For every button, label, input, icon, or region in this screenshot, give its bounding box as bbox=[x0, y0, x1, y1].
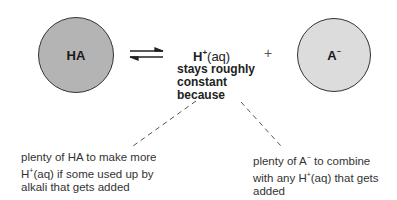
dashed-pointer-right bbox=[241, 102, 281, 146]
h-plus-explanation: H+(aq) stays roughly constant because bbox=[177, 46, 255, 102]
a-minus-ion-circle: A− bbox=[297, 18, 371, 92]
a-minus-label: A− bbox=[327, 48, 340, 63]
plus-sign: + bbox=[264, 45, 272, 61]
h-plus-species: H+(aq) bbox=[193, 46, 255, 63]
caption-line-3: because bbox=[177, 89, 255, 102]
note-right: plenty of A− to combine with any H+(aq) … bbox=[253, 151, 393, 198]
note-left: plenty of HA to make more H+(aq) if some… bbox=[21, 151, 191, 194]
equilibrium-arrow-icon bbox=[130, 48, 163, 60]
dashed-pointer-left bbox=[133, 101, 196, 146]
